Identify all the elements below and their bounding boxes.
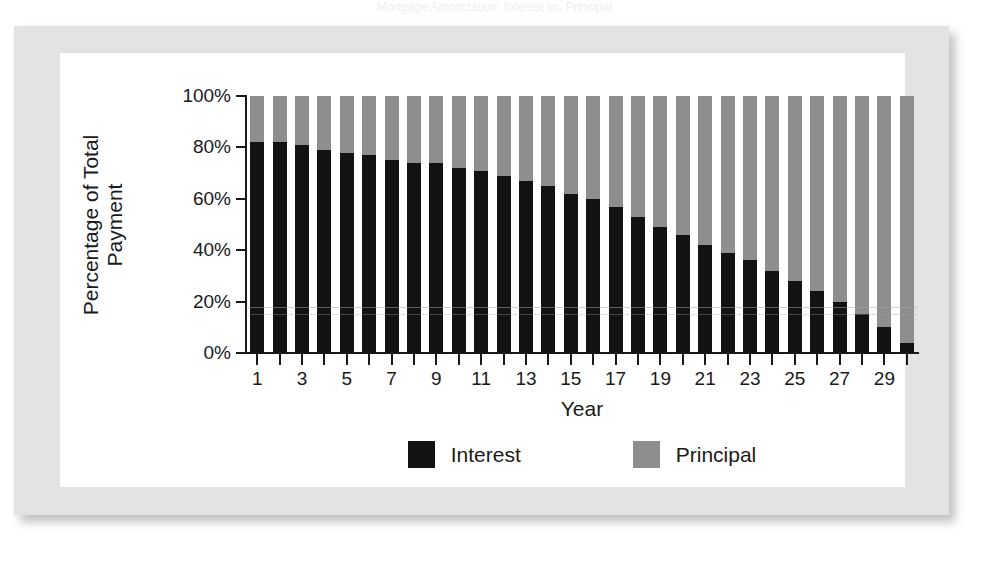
bar-segment-interest — [721, 253, 735, 353]
x-tick-mark — [391, 354, 393, 365]
bar-column — [721, 96, 735, 353]
y-tick-mark — [236, 146, 246, 148]
cropped-figure-title: Mortgage Amortization: Interest vs. Prin… — [0, 0, 989, 14]
x-tick-mark — [839, 354, 841, 365]
bar-segment-interest — [631, 217, 645, 353]
x-tick-mark — [592, 354, 594, 365]
x-tick-label: 23 — [730, 369, 770, 388]
bar-segment-principal — [765, 96, 779, 271]
bar-column — [586, 96, 600, 353]
bar-segment-principal — [721, 96, 735, 253]
x-tick-label: 1 — [237, 369, 277, 388]
bar-column — [877, 96, 891, 353]
bar-column — [452, 96, 466, 353]
bar-column — [653, 96, 667, 353]
bar-segment-principal — [362, 96, 376, 155]
bar-column — [541, 96, 555, 353]
x-tick-label: 17 — [596, 369, 636, 388]
x-tick-mark — [570, 354, 572, 365]
bar-column — [676, 96, 690, 353]
x-tick-mark — [503, 354, 505, 365]
bar-segment-principal — [452, 96, 466, 168]
bar-segment-interest — [676, 235, 690, 353]
bar-column — [474, 96, 488, 353]
bar-column — [385, 96, 399, 353]
bar-column — [810, 96, 824, 353]
x-tick-mark — [771, 354, 773, 365]
bar-segment-principal — [855, 96, 869, 314]
x-tick-label: 29 — [864, 369, 904, 388]
bar-segment-principal — [385, 96, 399, 160]
bar-segment-principal — [295, 96, 309, 145]
bar-column — [743, 96, 757, 353]
bar-segment-interest — [900, 343, 914, 353]
bar-segment-interest — [273, 142, 287, 353]
bar-segment-principal — [474, 96, 488, 171]
x-tick-label: 27 — [820, 369, 860, 388]
x-tick-mark — [861, 354, 863, 365]
bar-segment-principal — [810, 96, 824, 291]
bar-segment-principal — [564, 96, 578, 194]
x-tick-mark — [435, 354, 437, 365]
x-tick-label: 13 — [506, 369, 546, 388]
x-tick-mark — [480, 354, 482, 365]
bar-segment-principal — [877, 96, 891, 327]
legend-label: Principal — [676, 444, 757, 465]
x-tick-mark — [256, 354, 258, 365]
bar-segment-principal — [429, 96, 443, 163]
bar-segment-principal — [676, 96, 690, 235]
bar-segment-interest — [855, 314, 869, 353]
x-tick-mark — [301, 354, 303, 365]
bar-segment-interest — [653, 227, 667, 353]
x-tick-mark — [883, 354, 885, 365]
bar-column — [519, 96, 533, 353]
x-tick-mark — [323, 354, 325, 365]
bar-segment-interest — [833, 302, 847, 353]
x-tick-label: 15 — [551, 369, 591, 388]
bar-segment-interest — [429, 163, 443, 353]
y-axis-title-line2: Payment — [103, 183, 126, 266]
x-tick-mark — [704, 354, 706, 365]
bar-column — [497, 96, 511, 353]
bar-segment-interest — [452, 168, 466, 353]
x-tick-label: 3 — [282, 369, 322, 388]
plot-area — [246, 96, 918, 353]
legend-swatch-principal — [633, 441, 660, 468]
x-tick-mark — [682, 354, 684, 365]
x-axis-title: Year — [246, 397, 918, 421]
bar-column — [564, 96, 578, 353]
x-tick-mark — [749, 354, 751, 365]
bar-column — [900, 96, 914, 353]
bar-segment-interest — [698, 245, 712, 353]
bar-segment-interest — [519, 181, 533, 353]
bar-column — [631, 96, 645, 353]
bar-segment-principal — [631, 96, 645, 217]
chart-legend: InterestPrincipal — [246, 441, 918, 468]
bar-segment-principal — [250, 96, 264, 142]
x-tick-mark — [547, 354, 549, 365]
bar-segment-interest — [497, 176, 511, 353]
x-tick-mark — [525, 354, 527, 365]
bar-segment-principal — [519, 96, 533, 181]
bar-segment-principal — [788, 96, 802, 281]
x-tick-label: 7 — [372, 369, 412, 388]
y-tick-mark — [236, 249, 246, 251]
bar-segment-interest — [765, 271, 779, 353]
bar-segment-principal — [273, 96, 287, 142]
bar-column — [698, 96, 712, 353]
bar-segment-principal — [609, 96, 623, 207]
bar-segment-principal — [833, 96, 847, 302]
bar-column — [362, 96, 376, 353]
bar-segment-interest — [317, 150, 331, 353]
bar-segment-principal — [541, 96, 555, 186]
bar-column — [429, 96, 443, 353]
bar-segment-interest — [877, 327, 891, 353]
bar-segment-interest — [340, 153, 354, 353]
x-tick-mark — [727, 354, 729, 365]
legend-entry: Interest — [408, 441, 521, 468]
bar-column — [855, 96, 869, 353]
bar-segment-interest — [407, 163, 421, 353]
bar-segment-principal — [586, 96, 600, 199]
x-tick-mark — [346, 354, 348, 365]
y-axis-title: Percentage of Total Payment — [72, 96, 134, 353]
